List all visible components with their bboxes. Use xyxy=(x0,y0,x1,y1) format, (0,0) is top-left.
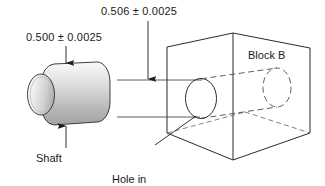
shaft-part xyxy=(28,62,111,125)
hole-name-line-1: Hole in xyxy=(112,173,146,185)
block-part xyxy=(167,33,310,160)
block-right-top-edge xyxy=(233,33,310,48)
hole-feature xyxy=(186,68,292,119)
shaft-name-label: Shaft xyxy=(36,152,62,164)
shaft-front-face xyxy=(28,74,55,115)
block-front-top-edge xyxy=(167,33,233,47)
technical-diagram-figure: 0.500 ± 0.0025 0.506 ± 0.0025 Shaft Hole… xyxy=(0,0,325,186)
block-bottom-right-edge xyxy=(233,133,310,160)
hole-near-opening xyxy=(186,79,217,119)
block-hidden-edges xyxy=(167,112,310,133)
hole-leader-line xyxy=(155,116,196,145)
hole-dimension-label: 0.506 ± 0.0025 xyxy=(101,5,177,17)
block-hidden-bottom-right xyxy=(245,112,310,133)
block-name-label: Block B xyxy=(248,49,285,61)
block-bottom-left-edge xyxy=(167,133,233,160)
hole-name-label: Hole in block xyxy=(112,148,146,186)
shaft-dimension-label: 0.500 ± 0.0025 xyxy=(26,31,102,43)
hole-bore-top-line xyxy=(201,68,277,79)
hole-far-opening xyxy=(263,68,291,107)
